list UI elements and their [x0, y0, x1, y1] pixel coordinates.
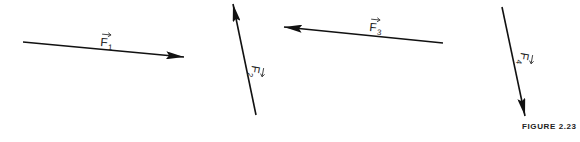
vector-f2: F 2	[233, 4, 266, 115]
vector-f3: F 3	[284, 17, 443, 43]
svg-text:2: 2	[245, 72, 255, 78]
vector-f4: F 4	[502, 7, 535, 116]
vector-f1: F 1	[23, 32, 184, 57]
svg-text:3: 3	[376, 28, 382, 37]
force-vectors-diagram: F 1 F 2 F 3 F 4	[0, 0, 580, 142]
label-f3: F 3	[369, 17, 384, 37]
svg-text:4: 4	[514, 59, 524, 65]
label-f1: F 1	[100, 32, 115, 52]
label-f4: F 4	[514, 51, 535, 67]
figure-caption: FIGURE 2.23	[522, 122, 577, 131]
arrow-f2	[233, 4, 256, 115]
arrow-f3	[284, 27, 443, 43]
